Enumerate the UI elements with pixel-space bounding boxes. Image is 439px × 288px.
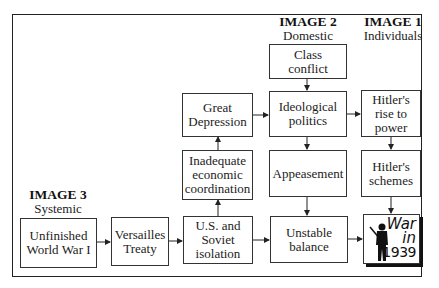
node-inadequate-coordination: Inadequate economic coordination (182, 150, 253, 200)
node-great-depression: Great Depression (182, 93, 253, 137)
node-us-soviet-isolation: U.S. and Soviet isolation (183, 216, 253, 264)
node-hitlers-rise: Hitler's rise to power (361, 90, 421, 137)
node-appeasement: Appeasement (269, 150, 347, 197)
node-versailles: Versailles Treaty (111, 217, 169, 266)
node-class-conflict: Class conflict (269, 44, 347, 79)
node-unfinished-ww1: Unfinished World War I (20, 218, 97, 268)
node-war-1939: War in 1939 (363, 214, 420, 264)
war-label: War in 1939 (382, 217, 416, 259)
node-ideological-politics: Ideological politics (269, 91, 347, 137)
node-unstable-balance: Unstable balance (270, 216, 348, 263)
node-hitlers-schemes: Hitler's schemes (361, 150, 421, 197)
